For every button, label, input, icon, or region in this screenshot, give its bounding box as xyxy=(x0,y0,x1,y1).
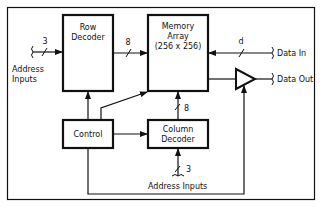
data-out-path: Data Out xyxy=(208,69,313,89)
column-address-width: 3 xyxy=(186,165,191,174)
row-decoder-label-1: Row xyxy=(80,23,97,32)
address-inputs-label-1: Address xyxy=(12,65,44,74)
row-decoder-block: Row Decoder xyxy=(63,15,113,91)
column-decoder-label-2: Decoder xyxy=(161,135,195,144)
control-label: Control xyxy=(74,130,103,139)
column-decoder-block: Column Decoder xyxy=(148,120,208,148)
data-in-label: Data In xyxy=(277,49,306,58)
column-to-array-bus: 8 xyxy=(175,92,189,120)
data-in-bus: d Data In xyxy=(209,37,306,59)
column-address-label: Address Inputs xyxy=(148,182,207,191)
memory-array-label-2: Array xyxy=(167,32,189,41)
control-to-array-line xyxy=(101,92,147,120)
memory-block-diagram: Row Decoder Memory Array (256 x 256) Con… xyxy=(0,0,322,208)
column-decoder-label-1: Column xyxy=(163,125,194,134)
output-buffer-icon xyxy=(236,69,255,89)
data-in-bus-width: d xyxy=(238,37,243,46)
control-block: Control xyxy=(63,120,113,148)
column-address-bus: 3 Address Inputs xyxy=(148,149,207,191)
row-bus-width: 8 xyxy=(125,38,130,47)
memory-array-label-3: (256 x 256) xyxy=(155,42,202,51)
memory-array-block: Memory Array (256 x 256) xyxy=(148,15,208,91)
address-input-bus: 3 Address Inputs xyxy=(12,37,62,84)
column-bus-width: 8 xyxy=(184,104,189,113)
address-bus-width: 3 xyxy=(42,37,47,46)
memory-array-label-1: Memory xyxy=(162,22,195,31)
row-decoder-label-2: Decoder xyxy=(71,33,105,42)
data-out-label: Data Out xyxy=(277,75,313,84)
row-to-array-bus: 8 xyxy=(113,38,147,57)
address-inputs-label-2: Inputs xyxy=(12,75,37,84)
